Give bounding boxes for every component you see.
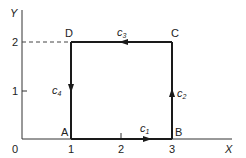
- point-label-b: B: [175, 126, 182, 138]
- arrow-c3-icon: [119, 39, 128, 45]
- arrow-c1-icon: [143, 136, 152, 142]
- y-tick-label-1: 1: [12, 85, 18, 97]
- curve-label-c4: c4: [52, 84, 62, 97]
- x-tick-label-3: 3: [169, 143, 175, 155]
- y-axis-label: Y: [10, 7, 18, 19]
- origin-label: 0: [12, 143, 18, 155]
- x-axis-label: X: [224, 143, 233, 155]
- point-label-c: C: [171, 27, 179, 39]
- curve-label-c3: c3: [117, 26, 127, 39]
- arrow-c4-icon: [68, 84, 74, 93]
- curve-label-c2: c2: [177, 87, 187, 100]
- x-tick-label-2: 2: [118, 143, 124, 155]
- closed-path-diagram: Y X 0 1 2 3 1 2 A B C D c1 c2 c3 c4: [0, 0, 246, 158]
- point-label-d: D: [65, 27, 73, 39]
- curve-label-c1: c1: [140, 122, 150, 135]
- x-tick-label-1: 1: [68, 143, 74, 155]
- arrow-c2-icon: [169, 88, 175, 97]
- y-tick-label-2: 2: [12, 36, 18, 48]
- point-label-a: A: [61, 126, 69, 138]
